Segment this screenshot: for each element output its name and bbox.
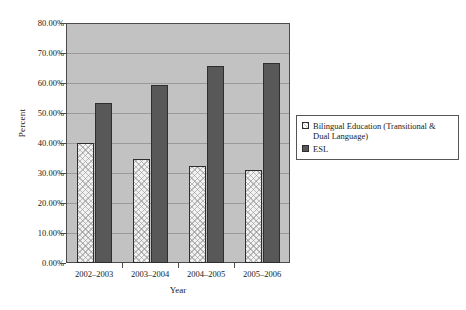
y-axis-tick-label: 60.00% (20, 79, 64, 88)
y-axis-tick-label: 10.00% (20, 229, 64, 238)
bar (133, 159, 150, 263)
chart-legend: Bilingual Education (Transitional & Dual… (296, 115, 459, 160)
x-axis-tick-mark (178, 263, 179, 268)
bar (95, 103, 112, 263)
bars-layer (66, 23, 290, 263)
x-axis-tick-mark (122, 263, 123, 268)
bar (245, 170, 262, 263)
bar (263, 63, 280, 263)
bar-chart: Percent 0.00%10.00%20.00%30.00%40.00%50.… (0, 0, 466, 310)
y-axis-tick-label: 80.00% (20, 19, 64, 28)
bar (151, 85, 168, 263)
legend-swatch-bilingual (302, 122, 309, 129)
x-axis-tick-mark (234, 263, 235, 268)
legend-item: ESL (302, 144, 453, 154)
y-axis-tick-label: 20.00% (20, 199, 64, 208)
x-axis-title: Year (66, 285, 290, 295)
bar (207, 66, 224, 263)
y-axis-tick-labels: 0.00%10.00%20.00%30.00%40.00%50.00%60.00… (16, 0, 64, 310)
bar (77, 143, 94, 263)
y-axis-tick-mark (60, 263, 66, 264)
bar (189, 166, 206, 263)
x-axis-tick-label: 2002–2003 (66, 269, 122, 279)
legend-item-label: Bilingual Education (Transitional & Dual… (313, 121, 453, 141)
legend-swatch-esl (302, 145, 309, 152)
y-axis-tick-label: 50.00% (20, 109, 64, 118)
legend-item-label: ESL (313, 144, 453, 154)
legend-item: Bilingual Education (Transitional & Dual… (302, 121, 453, 141)
y-axis-tick-label: 0.00% (20, 259, 64, 268)
y-axis-tick-label: 70.00% (20, 49, 64, 58)
y-axis-tick-label: 30.00% (20, 169, 64, 178)
x-axis-tick-label: 2004–2005 (178, 269, 234, 279)
x-axis-tick-label: 2005–2006 (234, 269, 290, 279)
y-axis-tick-label: 40.00% (20, 139, 64, 148)
x-axis-tick-label: 2003–2004 (122, 269, 178, 279)
